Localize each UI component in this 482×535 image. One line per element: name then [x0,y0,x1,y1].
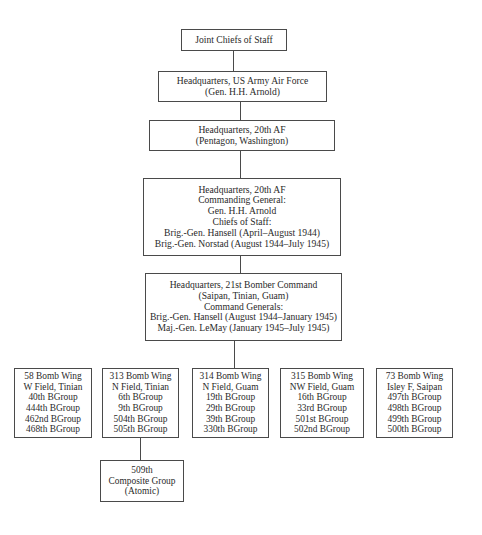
node-line: (Atomic) [125,486,159,497]
node-line: 39th BGroup [206,414,255,425]
node-line: Maj.-Gen. LeMay (January 1945–July 1945) [157,323,329,334]
node-line: 499th BGroup [388,414,442,425]
node-line: 40th BGroup [28,392,77,403]
node-line: 33rd BGroup [297,403,347,414]
node-label: 58 Bomb Wing [24,371,81,382]
node-line: 505th BGroup [114,424,168,435]
node-sublabel: (Pentagon, Washington) [196,136,288,147]
node-label: 313 Bomb Wing [110,371,172,382]
node-hq-20th-af-pentagon: Headquarters, 20th AF (Pentagon, Washing… [149,120,335,151]
connector-wing313-grp509 [140,437,141,460]
node-line: 501st BGroup [296,414,349,425]
node-label: 73 Bomb Wing [386,371,443,382]
node-line: 497th BGroup [388,392,442,403]
node-line: 19th BGroup [206,392,255,403]
connector-hq20-command-bc21 [240,255,241,273]
node-line: 498th BGroup [388,403,442,414]
node-line: Isley F, Saipan [387,382,442,393]
node-line: (Saipan, Tinian, Guam) [198,291,288,302]
node-73-bomb-wing: 73 Bomb Wing Isley F, Saipan 497th BGrou… [376,368,453,438]
node-line: 16th BGroup [297,392,346,403]
node-label: 314 Bomb Wing [200,371,262,382]
node-label: 315 Bomb Wing [291,371,353,382]
node-label: 509th [131,465,152,476]
connector-usaaf-hq20-pentagon [240,101,241,120]
node-line: 468th BGroup [26,424,80,435]
node-509th-composite-group: 509th Composite Group (Atomic) [100,460,184,502]
node-label: Joint Chiefs of Staff [195,35,272,46]
node-line: N Field, Tinian [112,382,169,393]
node-314-bomb-wing: 314 Bomb Wing N Field, Guam 19th BGroup … [192,368,269,438]
node-line: 500th BGroup [388,424,442,435]
node-line: Brig.-Gen. Norstad (August 1944–July 194… [155,239,329,250]
node-line: 9th BGroup [118,403,163,414]
node-line: 330th BGroup [204,424,258,435]
connector-hq20-pentagon-hq20-command [240,150,241,178]
node-label: Headquarters, 20th AF [198,125,285,136]
node-line: Composite Group [109,476,176,487]
node-line: N Field, Guam [203,382,259,393]
node-line: 6th BGroup [118,392,163,403]
node-line: NW Field, Guam [290,382,355,393]
node-line: 444th BGroup [26,403,80,414]
node-label: Headquarters, US Army Air Force [177,76,308,87]
node-line: 504th BGroup [114,414,168,425]
node-hq-20th-af-command: Headquarters, 20th AF Commanding General… [143,178,341,256]
node-hq-us-army-air-force: Headquarters, US Army Air Force (Gen. H.… [158,71,327,102]
node-hq-21st-bomber-command: Headquarters, 21st Bomber Command (Saipa… [145,273,342,341]
node-line: 29th BGroup [206,403,255,414]
node-313-bomb-wing: 313 Bomb Wing N Field, Tinian 6th BGroup… [102,368,179,438]
node-line: Brig.-Gen. Hansell (April–August 1944) [164,228,320,239]
node-joint-chiefs-of-staff: Joint Chiefs of Staff [181,29,287,51]
connector-jcs-usaaf [233,50,234,71]
node-58-bomb-wing: 58 Bomb Wing W Field, Tinian 40th BGroup… [14,368,92,438]
node-line: W Field, Tinian [24,382,83,393]
node-sublabel: (Gen. H.H. Arnold) [205,87,280,98]
connector-bc21-wing314 [234,340,235,368]
node-line: 502nd BGroup [294,424,350,435]
node-315-bomb-wing: 315 Bomb Wing NW Field, Guam 16th BGroup… [280,368,364,438]
node-line: 462nd BGroup [25,414,81,425]
